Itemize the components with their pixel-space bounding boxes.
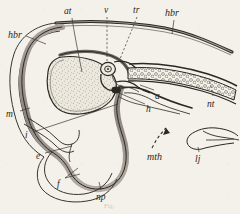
embryo-section-drawing [0, 0, 240, 214]
label-e: e [36, 152, 40, 162]
anatomical-figure: hbr at v tr hbr a nt h m i e f np mth lj… [0, 0, 240, 214]
label-a: a [155, 92, 160, 102]
label-tr: tr [133, 6, 139, 16]
label-i: i [25, 131, 28, 141]
figure-caption: Fig. [104, 203, 115, 209]
label-mth: mth [147, 152, 162, 162]
label-at: at [64, 7, 71, 17]
label-hbr-right: hbr [165, 8, 179, 18]
label-m: m [6, 110, 13, 120]
notochord [128, 63, 237, 104]
label-hbr-left: hbr [8, 30, 22, 40]
label-v: v [104, 6, 108, 16]
label-lj: lj [195, 155, 200, 165]
label-f: f [57, 180, 60, 190]
label-np: np [96, 193, 106, 203]
label-nt: nt [207, 100, 214, 110]
mouth-direction-arrow [152, 128, 170, 148]
lower-jaw-inset-sketch [187, 128, 239, 152]
label-h: h [146, 105, 151, 115]
